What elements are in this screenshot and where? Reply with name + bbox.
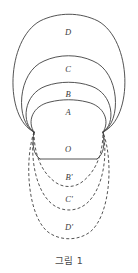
arc-label-c-prime: C': [65, 194, 73, 204]
arc-label-group: D C B A O B' C' D': [64, 27, 73, 232]
arc-label-d-prime: D': [64, 222, 73, 232]
arc-label-d: D: [64, 27, 72, 37]
region-label-o: O: [65, 144, 71, 154]
figure-caption: 그림 1: [0, 253, 138, 267]
region-o-left-side: [33, 132, 40, 159]
nested-arcs-diagram: D C B A O B' C' D': [0, 0, 138, 273]
arc-label-c: C: [65, 64, 71, 74]
arc-label-a: A: [64, 107, 71, 117]
arc-label-b-prime: B': [65, 172, 72, 182]
figure-container: D C B A O B' C' D' 그림 1: [0, 0, 138, 273]
arc-label-b: B: [65, 89, 70, 99]
